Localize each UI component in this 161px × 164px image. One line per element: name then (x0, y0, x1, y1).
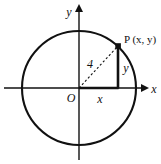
origin-label: O (67, 91, 76, 105)
point-p-label: P (x, y) (124, 33, 157, 46)
diagram-canvas: y x O P (x, y) 4 x y (0, 0, 161, 164)
radius-dashed-segment (79, 46, 118, 88)
y-axis-arrowhead (75, 4, 83, 12)
y-axis-label: y (65, 5, 72, 19)
leg-horizontal-label: x (96, 92, 103, 106)
circle-diagram-figure: y x O P (x, y) 4 x y (0, 0, 161, 164)
leg-vertical-label: y (122, 61, 129, 75)
x-axis-arrowhead (141, 84, 149, 92)
point-p-marker (115, 43, 121, 49)
radius-length-label: 4 (87, 57, 93, 71)
x-axis-label: x (150, 82, 157, 96)
